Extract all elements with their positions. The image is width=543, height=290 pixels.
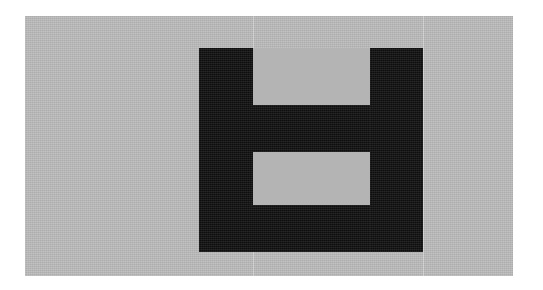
- glyph-right-stem: [370, 48, 423, 252]
- glyph-noise-texture: [253, 105, 370, 152]
- glyph-noise-texture: [253, 205, 370, 252]
- panel-seam-right: [423, 16, 424, 276]
- glyph-upper-notch: [253, 48, 370, 105]
- glyph-noise-texture: [370, 48, 423, 252]
- glyph-bottom-bar: [253, 205, 370, 252]
- glyph-noise-texture: [199, 48, 253, 252]
- gray-panel: [25, 16, 513, 276]
- glyph-crossbar: [253, 105, 370, 152]
- glyph-left-stem: [199, 48, 253, 252]
- glyph-lower-counter: [253, 152, 370, 205]
- image-canvas: [0, 0, 543, 290]
